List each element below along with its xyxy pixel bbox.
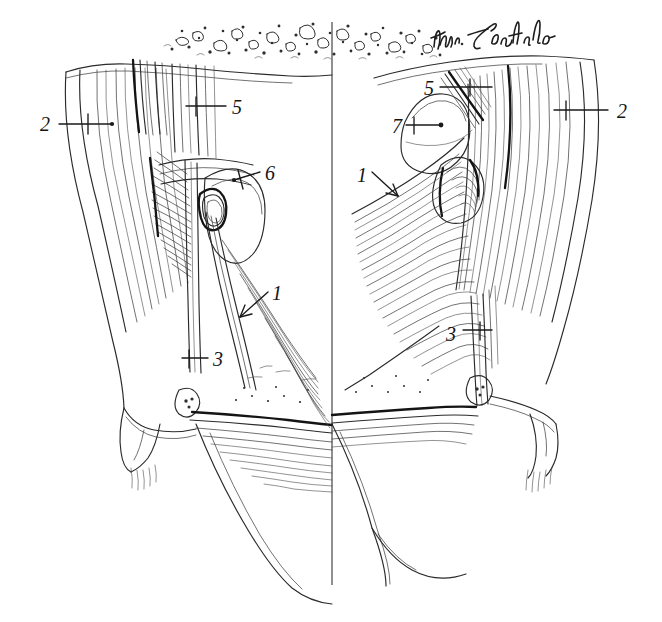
label-right-1-text: 1: [357, 164, 367, 186]
paper-background: [0, 0, 662, 622]
label-right-2-text: 2: [617, 100, 627, 122]
label-right-5-text: 5: [424, 77, 434, 99]
label-left-6-text: 6: [265, 162, 275, 184]
illustration-canvas: 2 5 6 1 3: [0, 0, 662, 622]
label-left-5-text: 5: [232, 96, 242, 118]
label-left-3-text: 3: [212, 348, 223, 370]
label-right-3-text: 3: [445, 323, 456, 345]
label-right-7-text: 7: [392, 115, 403, 137]
anatomical-figure: 2 5 6 1 3: [0, 0, 662, 622]
label-left-2-text: 2: [40, 113, 50, 135]
label-left-1-text: 1: [272, 282, 282, 304]
